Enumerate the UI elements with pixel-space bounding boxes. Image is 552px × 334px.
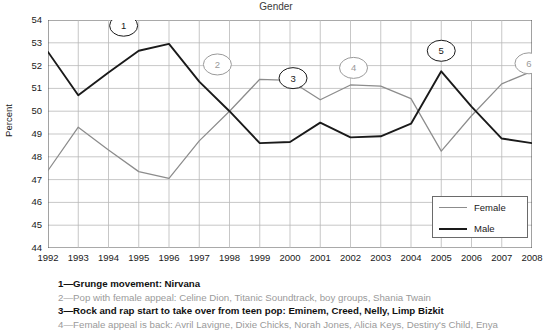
- chart-title: Gender: [0, 1, 552, 12]
- y-tick-label: 51: [20, 82, 42, 93]
- annotation-note: 4—Female appeal is back: Avril Lavigne, …: [58, 318, 552, 332]
- y-axis-label: Percent: [3, 91, 14, 151]
- x-tick-label: 2008: [512, 252, 552, 263]
- annotation-note: 1—Grunge movement: Nirvana: [58, 277, 552, 291]
- y-tick-label: 46: [20, 196, 42, 207]
- annotation-note: 3—Rock and rap start to take over from t…: [58, 304, 552, 318]
- svg-text:5: 5: [439, 45, 444, 56]
- svg-text:1: 1: [121, 20, 126, 31]
- y-tick-label: 47: [20, 174, 42, 185]
- annotation-notes: 1—Grunge movement: Nirvana2—Pop with fem…: [58, 277, 552, 331]
- y-tick-label: 54: [20, 14, 42, 25]
- legend-swatch-male: [439, 228, 467, 230]
- y-tick-label: 50: [20, 105, 42, 116]
- chart-legend: Female Male: [432, 196, 528, 238]
- y-tick-label: 52: [20, 60, 42, 71]
- y-tick-label: 53: [20, 37, 42, 48]
- svg-text:2: 2: [215, 59, 220, 70]
- svg-text:6: 6: [526, 58, 531, 69]
- annotation-note: 2—Pop with female appeal: Celine Dion, T…: [58, 291, 552, 305]
- y-tick-label: 45: [20, 219, 42, 230]
- svg-text:3: 3: [290, 73, 295, 84]
- legend-item-female: Female: [433, 197, 527, 218]
- svg-text:4: 4: [351, 62, 356, 73]
- legend-item-male: Male: [433, 218, 527, 239]
- y-tick-label: 48: [20, 151, 42, 162]
- legend-swatch-female: [439, 207, 467, 208]
- legend-label-male: Male: [474, 223, 495, 234]
- legend-label-female: Female: [474, 202, 506, 213]
- y-tick-label: 49: [20, 128, 42, 139]
